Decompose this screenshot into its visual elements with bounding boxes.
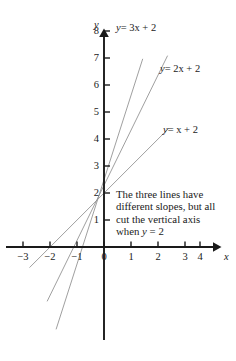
annotation-line-4: when y = 2 xyxy=(116,225,236,237)
x-tick-label--3: −3 xyxy=(13,252,33,263)
y-tick-label-1: 1 xyxy=(83,215,99,226)
y-tick-label-3: 3 xyxy=(83,161,99,172)
annotation-line-3: cut the vertical axis xyxy=(116,213,236,225)
x-tick-label-1: 1 xyxy=(121,252,141,263)
y-tick-label-7: 7 xyxy=(83,53,99,64)
annotation-when: when xyxy=(116,225,142,237)
equation-label-3x-plus-2: y= 3x + 2 xyxy=(116,23,156,34)
plot-canvas xyxy=(0,0,236,361)
annotation-note: The three lines have different slopes, b… xyxy=(116,188,236,238)
line-graph-figure: −3 −2 −1 0 1 2 3 4 1 2 3 4 5 6 7 8 y x y… xyxy=(0,0,236,361)
eq2-expression: = 2x + 2 xyxy=(165,63,200,74)
x-tick-label--2: −2 xyxy=(40,252,60,263)
x-tick-label-0: 0 xyxy=(94,252,114,263)
y-axis xyxy=(99,29,110,341)
equation-label-2x-plus-2: y= 2x + 2 xyxy=(160,64,200,75)
eq1-expression: = 3x + 2 xyxy=(121,22,156,33)
y-axis-label: y xyxy=(94,20,99,31)
x-tick-label-2: 2 xyxy=(148,252,168,263)
x-axis-label: x xyxy=(224,252,229,263)
x-tick-label-4: 4 xyxy=(190,252,210,263)
y-tick-label-6: 6 xyxy=(83,80,99,91)
y-axis-arrow xyxy=(99,29,109,38)
equation-label-x-plus-2: y= x + 2 xyxy=(163,125,198,136)
annotation-line-2: different slopes, but all xyxy=(116,200,236,212)
annotation-line-1: The three lines have xyxy=(116,188,236,200)
line-y-equals-2x-plus-2 xyxy=(47,56,167,301)
eq3-expression: = x + 2 xyxy=(168,124,198,135)
x-axis-arrow xyxy=(213,242,222,252)
x-tick-label--1: −1 xyxy=(67,252,87,263)
y-tick-label-4: 4 xyxy=(83,134,99,145)
annotation-value: = 2 xyxy=(147,225,164,237)
y-tick-label-5: 5 xyxy=(83,107,99,118)
x-axis xyxy=(6,242,222,252)
y-tick-label-2: 2 xyxy=(83,188,99,199)
